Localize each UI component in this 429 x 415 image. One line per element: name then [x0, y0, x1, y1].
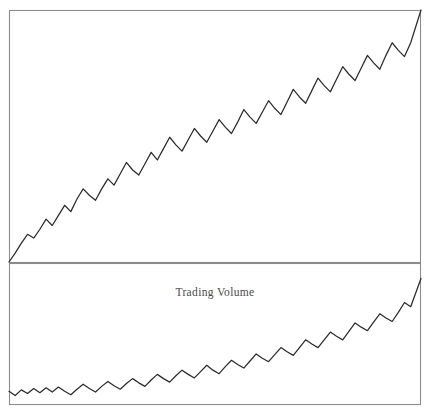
bottom-panel-frame — [10, 264, 421, 405]
bottom-panel-title: Trading Volume — [175, 286, 254, 299]
top-panel-frame — [10, 11, 421, 263]
chart-figure: Trading Volume — [0, 0, 429, 415]
figure-container: Trading Volume — [0, 0, 429, 415]
top-panel — [9, 10, 421, 263]
bottom-panel: Trading Volume — [9, 264, 421, 405]
